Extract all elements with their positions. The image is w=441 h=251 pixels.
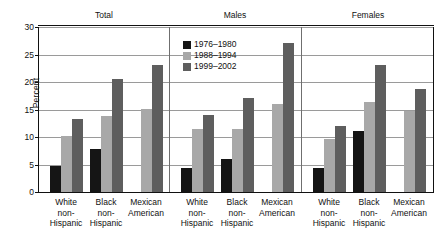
y-tick-label-0: 0 — [14, 188, 34, 196]
panel-title-females: Females — [328, 10, 408, 20]
panel-title-total: Total — [64, 10, 144, 20]
x-label-line: American — [119, 208, 173, 219]
panel-title-rule — [38, 25, 434, 26]
bar — [272, 104, 283, 193]
panel-divider-1 — [169, 27, 170, 193]
legend-swatch-icon — [183, 52, 191, 60]
chart-figure: Percent 051015202530 TotalMalesFemales 1… — [0, 0, 441, 251]
legend-label: 1976–1980 — [194, 40, 237, 49]
x-axis-category-label: MexicanAmerican — [119, 197, 173, 218]
legend-item: 1976–1980 — [183, 40, 237, 49]
bar — [101, 116, 112, 193]
bar — [221, 159, 232, 193]
bar — [203, 115, 214, 193]
legend-label: 1988–1994 — [194, 51, 237, 60]
x-label-line: Hispanic — [79, 218, 133, 229]
x-label-line: American — [250, 208, 304, 219]
legend-item: 1999–2002 — [183, 62, 237, 71]
panel-divider-2 — [301, 27, 302, 193]
bar — [90, 149, 101, 193]
bar — [324, 139, 335, 193]
bar — [181, 168, 192, 193]
y-tick-label-25: 25 — [14, 51, 34, 59]
x-label-line: Mexican — [250, 197, 304, 208]
legend-label: 1999–2002 — [194, 62, 237, 71]
bar — [243, 98, 254, 193]
bar — [72, 119, 83, 193]
bar — [353, 131, 364, 193]
bar — [313, 168, 324, 193]
bar — [152, 65, 163, 193]
legend-item: 1988–1994 — [183, 51, 237, 60]
bar — [283, 43, 294, 193]
bar — [364, 102, 375, 193]
bar — [404, 111, 415, 194]
legend-swatch-icon — [183, 41, 191, 49]
x-label-line: Hispanic — [342, 218, 396, 229]
bar — [415, 89, 426, 193]
y-tick-label-15: 15 — [14, 106, 34, 114]
y-tick-label-10: 10 — [14, 133, 34, 141]
x-label-line: Mexican — [382, 197, 436, 208]
plot-right-border — [433, 27, 434, 193]
bar — [375, 65, 386, 193]
bar — [192, 129, 203, 193]
x-axis-category-label: MexicanAmerican — [382, 197, 436, 218]
y-tick-label-20: 20 — [14, 78, 34, 86]
x-label-line: Mexican — [119, 197, 173, 208]
x-label-line: Hispanic — [210, 218, 264, 229]
panel-title-males: Males — [195, 10, 275, 20]
bar — [112, 79, 123, 193]
legend: 1976–19801988–19941999–2002 — [183, 40, 237, 73]
x-axis-category-label: MexicanAmerican — [250, 197, 304, 218]
y-axis-line — [38, 27, 39, 193]
legend-swatch-icon — [183, 63, 191, 71]
y-tick-label-5: 5 — [14, 161, 34, 169]
bar — [61, 136, 72, 193]
bar — [335, 126, 346, 193]
x-label-line: American — [382, 208, 436, 219]
gridline-30 — [38, 27, 434, 28]
bar — [232, 129, 243, 193]
y-tick-label-30: 30 — [14, 23, 34, 31]
x-axis-line — [38, 192, 434, 193]
bar — [141, 109, 152, 193]
bar — [50, 166, 61, 194]
